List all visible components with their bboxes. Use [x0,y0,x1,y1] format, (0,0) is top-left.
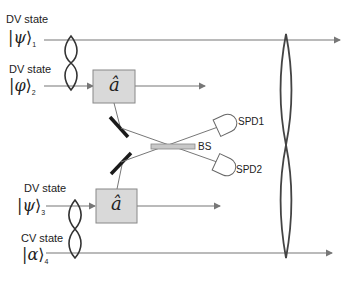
input-2-subscript: 2 [32,89,36,96]
input-4-symbol: α [27,245,38,264]
input-3-symbol: ψ [22,196,35,215]
input-4-subscript: 4 [44,258,48,265]
input-1-subscript: 1 [32,41,36,48]
input-1-label: DV state [6,13,48,25]
spd1-detector [213,111,240,136]
beam-splitter [151,144,195,149]
input-3-subscript: 3 [41,209,45,216]
entanglement-loop-3-4 [69,200,81,258]
operator-2-symbol: â [109,74,120,95]
input-1-ket: |ψ⟩1 [8,28,36,48]
spd1-label: SPD1 [238,116,264,127]
entanglement-loop-1-2 [65,36,77,90]
entanglement-loop-1-4 [281,34,292,258]
input-2-symbol: φ [14,76,25,95]
input-3-ket: |ψ⟩3 [17,196,45,216]
input-4-label: CV state [21,232,63,244]
spd2-detector [212,154,239,179]
operator-3-symbol: â [111,193,122,214]
input-1-symbol: ψ [13,28,26,47]
mirror-upper [110,117,128,137]
input-2-label: DV state [9,63,51,75]
spd2-label: SPD2 [236,164,262,175]
input-4-ket: |α⟩4 [22,245,48,265]
input-3-label: DV state [24,182,66,194]
input-2-ket: |φ⟩2 [9,76,36,96]
beam-splitter-label: BS [198,141,211,152]
